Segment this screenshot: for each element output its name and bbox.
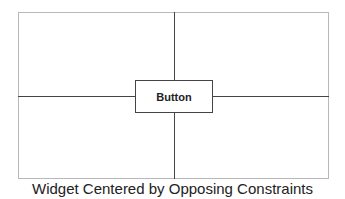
top-constraint-line xyxy=(174,12,175,80)
diagram-caption: Widget Centered by Opposing Constraints xyxy=(0,180,345,197)
button-label: Button xyxy=(156,91,191,103)
right-constraint-line xyxy=(213,96,329,97)
left-constraint-line xyxy=(18,96,135,97)
bottom-constraint-line xyxy=(174,113,175,179)
centered-button[interactable]: Button xyxy=(135,80,213,113)
